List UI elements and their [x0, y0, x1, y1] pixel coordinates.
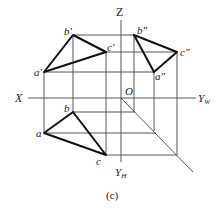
label-a-double-prime: a" — [155, 70, 166, 82]
z-axis-label: Z — [116, 5, 123, 19]
label-c-double-prime: c" — [180, 46, 190, 58]
45-degree-miter-line — [121, 98, 193, 172]
top-view-triangle — [44, 112, 106, 155]
projection-lines — [44, 35, 177, 155]
yh-axis-label: YH — [115, 166, 127, 180]
origin-label: O — [125, 85, 133, 97]
label-b-double-prime: b" — [137, 24, 148, 36]
label-c: c — [96, 155, 101, 167]
yw-axis-label: YW — [198, 92, 211, 106]
front-view-triangle — [44, 35, 106, 72]
figure-caption: (c) — [106, 189, 119, 202]
label-c-prime: c' — [107, 41, 115, 53]
label-b-prime: b' — [64, 25, 73, 37]
orthographic-projection-diagram: X Z O YW YH b' c' a' b" c" a" b a c (c) — [0, 0, 216, 210]
label-b: b — [64, 102, 70, 114]
label-a: a — [36, 127, 42, 139]
x-axis-label: X — [14, 91, 23, 105]
side-view-triangle — [134, 35, 177, 72]
label-a-prime: a' — [34, 66, 43, 78]
